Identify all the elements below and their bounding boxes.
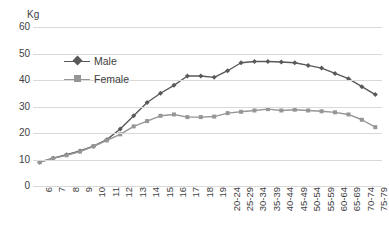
data-point-female-45-49 <box>293 108 297 112</box>
x-axis-tick-19: 19 <box>218 187 227 198</box>
legend-label-female: Female <box>90 73 129 85</box>
data-point-female-18 <box>199 115 203 119</box>
data-point-female-9 <box>78 150 82 154</box>
data-point-female-65-69 <box>346 112 350 116</box>
data-point-male-50-54 <box>306 63 311 68</box>
data-point-female-10 <box>91 144 95 148</box>
x-axis-tick-17: 17 <box>191 187 200 198</box>
x-axis-tick-14: 14 <box>151 187 160 198</box>
data-point-male-40-44 <box>279 59 284 64</box>
data-point-female-70-74 <box>360 118 364 122</box>
x-axis-tick-13: 13 <box>138 187 147 198</box>
x-axis-tick-55-59: 55-59 <box>326 187 335 211</box>
diamond-icon <box>73 56 83 66</box>
data-point-male-30-34 <box>252 59 257 64</box>
data-point-female-11 <box>105 138 109 142</box>
data-point-female-50-54 <box>306 108 310 112</box>
data-point-male-45-49 <box>292 60 297 65</box>
square-icon <box>74 75 81 82</box>
y-axis-tick-60: 60 <box>8 22 30 32</box>
data-point-female-17 <box>185 115 189 119</box>
legend-marker-male <box>64 56 90 66</box>
legend-item-female: Female <box>64 70 174 88</box>
data-point-female-13 <box>132 124 136 128</box>
series-line-female <box>40 109 376 162</box>
data-point-female-40-44 <box>279 108 283 112</box>
data-point-female-19 <box>212 115 216 119</box>
weight-by-age-line-chart: Kg 0102030405060 67891011121314151617181… <box>0 0 389 234</box>
x-axis-tick-16: 16 <box>178 187 187 198</box>
x-axis-tick-8: 8 <box>71 187 80 192</box>
x-axis-tick-60-64: 60-64 <box>339 187 348 211</box>
gridline <box>33 160 382 161</box>
data-point-female-55-59 <box>320 109 324 113</box>
y-axis-tick-20: 20 <box>8 128 30 138</box>
legend-label-male: Male <box>90 55 117 67</box>
legend-marker-female <box>64 74 90 84</box>
data-point-female-8 <box>65 153 69 157</box>
y-axis-tick-10: 10 <box>8 155 30 165</box>
data-point-male-60-64 <box>333 71 338 76</box>
x-axis-tick-70-74: 70-74 <box>366 187 375 211</box>
gridline <box>33 133 382 134</box>
y-axis-tick-50: 50 <box>8 49 30 59</box>
data-point-female-15 <box>159 114 163 118</box>
legend-item-male: Male <box>64 52 174 70</box>
x-axis-tick-65-69: 65-69 <box>352 187 361 211</box>
data-point-male-35-39 <box>265 59 270 64</box>
x-axis-tick-45-49: 45-49 <box>299 187 308 211</box>
x-axis-tick-labels: 67891011121314151617181920-2425-2930-343… <box>33 187 382 234</box>
y-axis-tick-0: 0 <box>8 181 30 191</box>
x-axis-tick-11: 11 <box>111 187 120 197</box>
x-axis-tick-40-44: 40-44 <box>285 187 294 211</box>
plot-area <box>33 27 382 186</box>
x-axis-tick-50-54: 50-54 <box>312 187 321 211</box>
y-axis-tick-30: 30 <box>8 102 30 112</box>
x-axis-tick-12: 12 <box>124 187 133 198</box>
data-point-female-30-34 <box>252 108 256 112</box>
data-point-female-60-64 <box>333 110 337 114</box>
x-axis-tick-18: 18 <box>205 187 214 198</box>
gridline <box>33 27 382 28</box>
x-axis-tick-10: 10 <box>97 187 106 198</box>
y-axis-tick-labels: 0102030405060 <box>0 0 30 234</box>
x-axis-tick-35-39: 35-39 <box>272 187 281 211</box>
data-point-female-20-24 <box>226 111 230 115</box>
x-axis-tick-30-34: 30-34 <box>258 187 267 211</box>
data-point-female-25-29 <box>239 110 243 114</box>
x-axis-tick-20-24: 20-24 <box>232 187 241 211</box>
x-axis-tick-6: 6 <box>44 187 53 192</box>
data-point-female-16 <box>172 112 176 116</box>
x-axis-tick-7: 7 <box>57 187 66 192</box>
chart-legend: Male Female <box>64 52 174 88</box>
x-axis-tick-75-79: 75-79 <box>379 187 388 211</box>
x-axis-tick-15: 15 <box>165 187 174 198</box>
y-axis-tick-40: 40 <box>8 75 30 85</box>
x-axis-tick-9: 9 <box>84 187 93 192</box>
data-point-female-14 <box>145 119 149 123</box>
x-axis-tick-25-29: 25-29 <box>245 187 254 211</box>
gridline <box>33 107 382 108</box>
data-point-male-18 <box>198 74 203 79</box>
data-point-male-55-59 <box>319 66 324 71</box>
data-point-female-75-79 <box>373 125 377 129</box>
